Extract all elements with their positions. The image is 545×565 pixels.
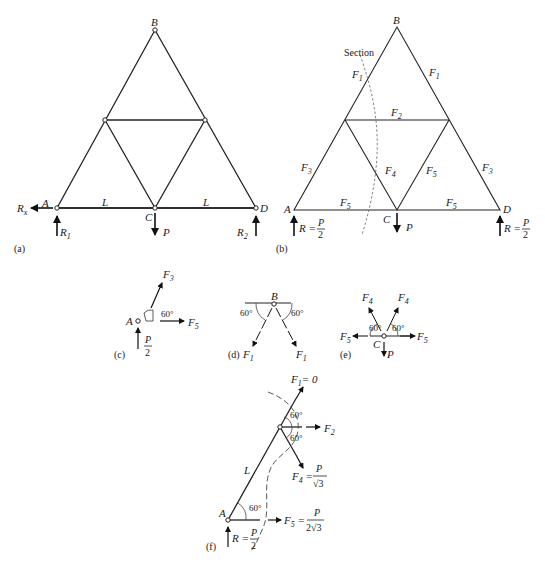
svg-text:P: P	[522, 217, 529, 228]
node-a-label: A	[218, 507, 226, 519]
reaction-r2-label: R2	[236, 226, 248, 241]
force-f1-right-label: F1	[295, 348, 307, 363]
span-right-label: L	[202, 196, 209, 208]
panel-e-caption: (e)	[340, 349, 351, 361]
panel-b-caption: (b)	[276, 243, 288, 255]
web-members	[105, 120, 205, 208]
node-a-label: A	[283, 203, 291, 215]
span-left-label: L	[101, 196, 108, 208]
load-p-label: P	[162, 226, 170, 238]
node-d-label: D	[259, 202, 268, 214]
load-p-label: P	[405, 221, 413, 233]
force-f1-left-label: F1	[242, 348, 254, 363]
node-b-label: B	[393, 14, 400, 26]
angle-mid-label: 60°	[290, 433, 303, 443]
panel-c: A 60° F3 F5 P 2 (c)	[114, 268, 199, 361]
angle-right-label: 60°	[291, 308, 304, 318]
panel-d-caption: (d)	[228, 349, 240, 361]
force-f5-left-label: F5	[339, 330, 351, 345]
panel-b	[294, 27, 500, 236]
svg-text:R =: R =	[231, 532, 249, 544]
section-label: Section	[344, 47, 374, 58]
angle-base-label: 60°	[249, 503, 262, 513]
node-d-label: D	[502, 203, 511, 215]
svg-text:R =: R =	[503, 222, 521, 234]
reaction-right-label: R = P 2	[503, 217, 530, 240]
force-f2-label: F2	[323, 422, 335, 437]
angle-left-label: 60°	[369, 323, 382, 333]
node-b-label: B	[151, 16, 158, 28]
svg-text:P: P	[317, 217, 324, 228]
angle-right-label: 60°	[392, 323, 405, 333]
force-f3-label: F3	[162, 268, 174, 283]
node-a-label: A	[41, 197, 49, 209]
angle-top-label: 60°	[290, 410, 303, 420]
member-f1-right-label: F1	[428, 66, 440, 81]
reaction-left-label: R = P 2	[298, 217, 325, 240]
member-f5-left-label: F5	[339, 196, 351, 211]
member-f2-label: F2	[390, 106, 402, 121]
reaction-den: 2	[145, 347, 150, 358]
member-f4-label: F4	[384, 164, 396, 179]
svg-text:2: 2	[523, 229, 528, 240]
panel-c-caption: (c)	[114, 349, 125, 361]
member-f3-left-label: F3	[300, 161, 312, 176]
force-f5-label: F5 = P 2√3	[283, 507, 324, 533]
node-c-label: C	[383, 213, 391, 225]
panel-d: B 60° 60° (d) F1 F1	[228, 290, 307, 363]
svg-text:2: 2	[251, 540, 256, 551]
node-c-label: C	[145, 211, 153, 223]
force-f4-left-label: F4	[361, 291, 373, 306]
panel-e: F4 F4 60° 60° F5 F5 C P (e)	[339, 291, 428, 361]
panel-a-caption: (a)	[14, 243, 25, 255]
panel-f: 60° 60° 60° L A F1= 0 F2 F4 = P √3 F5 = …	[206, 373, 335, 553]
member-f5-diag-label: F5	[425, 164, 437, 179]
svg-text:2√3: 2√3	[306, 522, 322, 533]
member-f1-left-label: F1	[351, 68, 363, 83]
force-f1-left-arrow	[253, 308, 272, 346]
force-f4-label: F4 = P √3	[291, 463, 327, 489]
svg-text:P: P	[313, 507, 320, 518]
member-f5-right-label: F5	[445, 196, 457, 211]
angle-label: 60°	[161, 309, 174, 319]
truss-figure: B A C D L L Rx R1 R2 P (a) B A C D Secti…	[0, 0, 545, 565]
angle-arc-base	[238, 503, 246, 520]
svg-text:R =: R =	[298, 222, 316, 234]
panel-f-caption: (f)	[206, 541, 216, 553]
member-f3-right-label: F3	[481, 161, 493, 176]
force-f4-arrow	[296, 455, 303, 468]
force-f1-label: F1= 0	[290, 373, 318, 388]
outer-truss-members	[57, 30, 256, 208]
node-c-label: C	[373, 338, 381, 350]
svg-text:F4 =: F4 =	[291, 470, 313, 485]
node-a-label: A	[125, 315, 133, 327]
reaction-rx-label: Rx	[16, 202, 28, 217]
load-p-label: P	[386, 348, 394, 360]
force-f5-right-label: F5	[416, 330, 428, 345]
reaction-label: R = P 2	[231, 527, 258, 551]
web-members	[345, 120, 449, 210]
angle-arc	[144, 310, 153, 321]
reaction-num: P	[144, 334, 151, 345]
force-f3-arrow	[151, 283, 162, 308]
svg-text:F5 =: F5 =	[283, 514, 305, 529]
force-f4-right-label: F4	[397, 291, 409, 306]
force-f5-label: F5	[187, 316, 199, 331]
svg-text:P: P	[315, 463, 322, 474]
svg-text:P: P	[250, 527, 257, 538]
angle-arc-left	[256, 303, 265, 320]
force-f1-arrow	[294, 387, 303, 402]
svg-text:√3: √3	[313, 478, 324, 489]
panel-a	[31, 28, 258, 236]
reaction-r1-label: R1	[59, 226, 71, 241]
span-label: L	[243, 464, 250, 476]
node-b-label: B	[271, 290, 278, 302]
angle-left-label: 60°	[240, 308, 253, 318]
svg-text:2: 2	[318, 229, 323, 240]
